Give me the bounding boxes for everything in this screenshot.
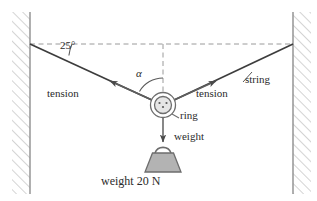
ring-speckle-right — [165, 102, 167, 104]
ring-label: ring — [180, 110, 198, 121]
tension-right-label: tension — [196, 88, 228, 99]
diagram-canvas — [0, 0, 317, 201]
angle-arc-alpha — [140, 78, 164, 92]
right-wall-hatching — [293, 12, 311, 194]
tension-left-label: tension — [47, 88, 79, 99]
ring-label-leader-line — [172, 114, 179, 118]
left-wall-hatching — [12, 12, 30, 194]
string-label: string — [245, 74, 270, 85]
ring-object — [151, 93, 176, 118]
ring-speckle-bottom — [162, 106, 164, 108]
ring-speckle-left — [158, 102, 160, 104]
weight-handle — [155, 147, 171, 153]
angle-25-label: 25° — [60, 40, 75, 51]
right-wall — [293, 12, 311, 194]
left-wall — [12, 12, 30, 194]
weight-value-label: weight 20 N — [101, 175, 160, 187]
ring-inner-circle — [155, 97, 172, 114]
weight-arrow-label: weight — [174, 131, 204, 142]
angle-alpha-label: α — [136, 68, 142, 79]
physics-diagram-figure: 25° α tension tension string ring weight… — [0, 0, 317, 201]
weight-body-trapezoid — [145, 153, 181, 172]
hanging-weight-object — [145, 147, 181, 172]
